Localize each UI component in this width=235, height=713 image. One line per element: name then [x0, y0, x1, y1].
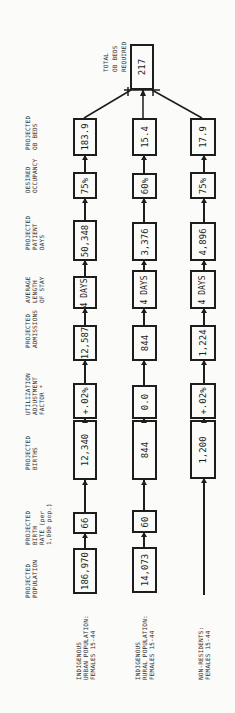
row2-population-box: 14,073 [132, 547, 157, 593]
row2-adjustment: 0.0 [140, 394, 149, 410]
arrow-icon [141, 480, 147, 485]
row1-occupancy-box: 75% [73, 172, 97, 199]
row2-admissions: 844 [140, 335, 149, 351]
row2-adjustment-box: 0.0 [132, 385, 157, 419]
row1-occupancy: 75% [81, 177, 90, 193]
row1-admissions-box: 12,587 [73, 325, 97, 361]
row2-population: 14,073 [140, 554, 149, 587]
row2-occupancy: 60% [140, 178, 149, 194]
row3-patient-days-box: 4,896 [190, 222, 216, 261]
row2-patient-days-box: 3,376 [132, 222, 157, 261]
header-projected-population: PROJECTED POPULATION [24, 560, 38, 598]
row3-length-of-stay-box: 4 DAYS [190, 270, 216, 309]
row1-ob-beds: 183.9 [81, 123, 90, 150]
row3-admissions: 1,224 [199, 329, 208, 356]
row3-births: 1,200 [199, 436, 208, 463]
row3-births-box: 1,200 [190, 420, 216, 479]
row2-ob-beds: 15.4 [140, 126, 149, 148]
total-ob-beds-value: 217 [138, 59, 147, 75]
row3-occupancy-box: 75% [190, 172, 216, 199]
row1-length-of-stay: 4 DAYS [81, 278, 89, 307]
row2-births-box: 844 [132, 420, 157, 480]
row3-adjustment: +.02% [199, 387, 208, 414]
row1-birth-rate: 66 [81, 518, 90, 529]
row2-birth-rate: 60 [140, 516, 149, 527]
row3-flow-line [203, 155, 205, 595]
header-projected-ob-beds: PROJECTED OB BEDS [24, 116, 38, 150]
row-label-urban: INDIGENOUS URBAN POPULATION: FEMALES 15-… [75, 615, 96, 680]
header-birth-rate: PROJECTED BIRTH RATE (per 1,000 pop.) [24, 503, 52, 545]
header-utilization-adjustment: UTILIZATION ADJUSTMENT FACTOR * [24, 373, 45, 415]
header-desired-occupancy: DESIRED OCCUPANCY [24, 159, 38, 193]
header-projected-admissions: PROJECTED ADMISSIONS [24, 310, 38, 348]
row1-length-of-stay-box: 4 DAYS [73, 276, 97, 309]
total-ob-beds-label: TOTAL OB BEDS REQUIRED [101, 12, 128, 72]
row3-occupancy: 75% [199, 177, 208, 193]
row2-patient-days: 3,376 [140, 228, 149, 255]
row1-population: 186,970 [81, 552, 90, 590]
row2-birth-rate-box: 60 [132, 510, 157, 533]
row3-length-of-stay: 4 DAYS [199, 275, 207, 304]
row2-births: 844 [140, 442, 149, 458]
row1-births-box: 12,340 [73, 420, 97, 480]
arrow-icon [82, 480, 88, 485]
row3-patient-days: 4,896 [199, 228, 208, 255]
row1-birth-rate-box: 66 [73, 512, 97, 534]
total-ob-beds-box: 217 [130, 44, 154, 90]
header-average-length-of-stay: AVERAGE LENGTH OF STAY [24, 276, 45, 303]
header-projected-births: PROJECTED BIRTHS [24, 436, 38, 470]
row3-admissions-box: 1,224 [190, 325, 216, 361]
row-label-rural: INDIGENOUS RURAL POPULATION: FEMALES 15-… [134, 615, 155, 680]
row3-ob-beds: 17.9 [199, 126, 208, 148]
row1-population-box: 186,970 [73, 548, 97, 594]
row1-births: 12,340 [81, 434, 90, 467]
row1-admissions: 12,587 [81, 327, 90, 360]
row2-admissions-box: 844 [132, 325, 157, 361]
row1-adjustment: +.02% [81, 387, 90, 414]
row2-length-of-stay-box: 4 DAYS [132, 270, 157, 309]
row-label-non-residents: NON-RESIDENTS: FEMALES 15-44 [197, 627, 211, 680]
row1-adjustment-box: +.02% [73, 383, 97, 419]
row2-occupancy-box: 60% [132, 173, 157, 199]
row3-adjustment-box: +.02% [190, 383, 216, 419]
header-projected-patient-days: PROJECTED PATIENT DAYS [24, 216, 45, 250]
row2-ob-beds-box: 15.4 [132, 118, 157, 156]
row1-patient-days-box: 50,348 [73, 220, 97, 261]
row3-ob-beds-box: 17.9 [190, 118, 216, 156]
row1-patient-days: 50,348 [81, 224, 90, 257]
row2-length-of-stay: 4 DAYS [141, 275, 149, 304]
row1-ob-beds-box: 183.9 [73, 118, 97, 156]
